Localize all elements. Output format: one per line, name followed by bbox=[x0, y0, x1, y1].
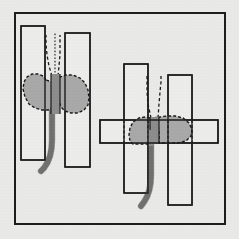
diagram-canvas bbox=[0, 0, 239, 239]
weld-diagram-figure bbox=[0, 0, 239, 239]
joint-gap-column bbox=[51, 74, 60, 114]
